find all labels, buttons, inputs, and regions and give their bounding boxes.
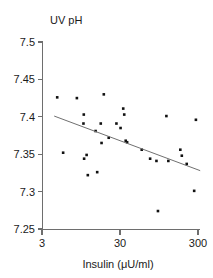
data-points bbox=[56, 93, 197, 212]
data-point bbox=[115, 122, 118, 125]
x-tick-label: 300 bbox=[189, 237, 207, 249]
chart-figure: 7.257.37.357.47.457.5 330300 UV pH Insul… bbox=[0, 0, 213, 278]
data-point bbox=[181, 154, 184, 157]
data-point bbox=[62, 151, 65, 154]
trend-line bbox=[54, 116, 200, 171]
y-tick-label: 7.3 bbox=[20, 186, 35, 198]
data-point bbox=[96, 171, 99, 174]
data-point bbox=[155, 160, 158, 163]
data-point bbox=[165, 115, 168, 118]
data-point bbox=[157, 210, 160, 213]
x-axis-ticks: 330300 bbox=[39, 230, 207, 250]
y-tick-label: 7.25 bbox=[14, 223, 35, 235]
data-point bbox=[195, 118, 198, 121]
data-point bbox=[99, 122, 102, 125]
x-tick-label: 30 bbox=[114, 237, 126, 249]
data-point bbox=[87, 174, 90, 177]
y-tick-label: 7.4 bbox=[20, 111, 35, 123]
data-point bbox=[100, 142, 103, 145]
data-point bbox=[82, 122, 85, 125]
scatter-plot: 7.257.37.357.47.457.5 330300 UV pH Insul… bbox=[0, 0, 213, 278]
data-point bbox=[122, 107, 125, 110]
x-axis-title: Insulin (μU/ml) bbox=[82, 258, 153, 270]
y-tick-label: 7.5 bbox=[20, 36, 35, 48]
data-point bbox=[179, 148, 182, 151]
data-point bbox=[103, 93, 106, 96]
y-axis-title: UV pH bbox=[50, 14, 82, 26]
data-point bbox=[149, 157, 152, 160]
data-point bbox=[119, 127, 122, 130]
data-point bbox=[167, 160, 170, 163]
y-axis-ticks: 7.257.37.357.47.457.5 bbox=[14, 36, 43, 235]
y-tick-label: 7.35 bbox=[14, 148, 35, 160]
x-tick-label: 3 bbox=[39, 237, 45, 249]
data-point bbox=[76, 97, 79, 100]
data-point bbox=[123, 113, 126, 116]
data-point bbox=[56, 96, 59, 99]
axes bbox=[42, 41, 200, 230]
data-point bbox=[193, 190, 196, 193]
data-point bbox=[83, 157, 86, 160]
data-point bbox=[85, 154, 88, 157]
data-point bbox=[82, 113, 85, 116]
y-tick-label: 7.45 bbox=[14, 73, 35, 85]
regression-line bbox=[54, 116, 200, 171]
